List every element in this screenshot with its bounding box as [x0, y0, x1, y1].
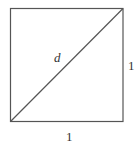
diagonal-label: d	[54, 50, 61, 65]
square-diagram: d 1 1	[0, 0, 140, 148]
bottom-side-label: 1	[66, 129, 73, 144]
diagonal-line	[11, 9, 124, 122]
right-side-label: 1	[128, 58, 135, 73]
